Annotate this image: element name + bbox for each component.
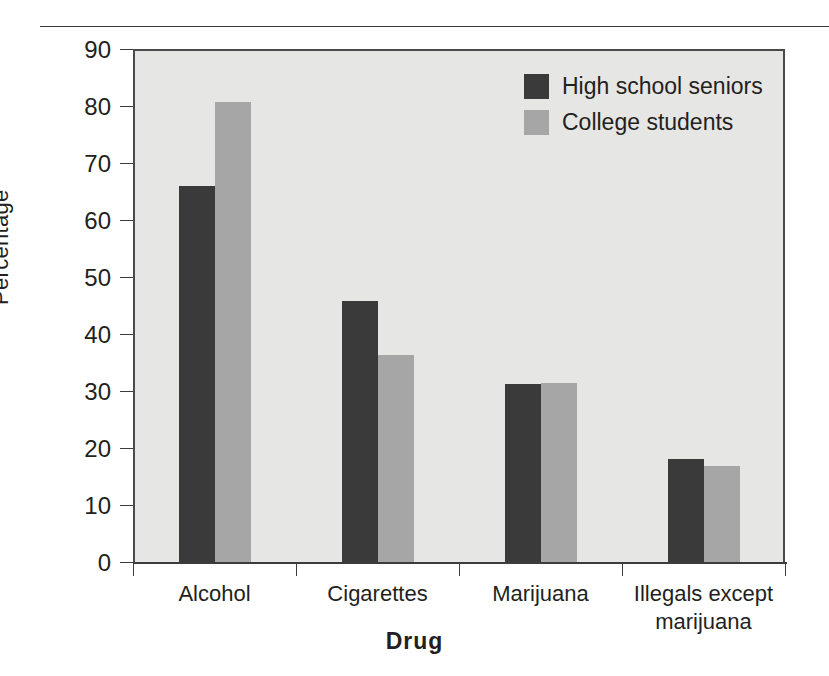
y-axis-tick: 10: [120, 505, 133, 506]
x-axis-category-label: Alcohol: [133, 580, 296, 608]
y-axis-tick-label: 20: [84, 437, 111, 461]
legend-swatch-icon: [524, 110, 549, 135]
y-axis-tick-label: 80: [84, 95, 111, 119]
legend-item: College students: [524, 109, 763, 136]
x-axis-tick: [785, 562, 786, 576]
y-axis-tick: 60: [120, 220, 133, 221]
bar-2-0: [505, 384, 541, 562]
y-axis-tick-label: 0: [98, 551, 111, 575]
x-axis-tick: [459, 562, 460, 576]
y-axis-tick: 30: [120, 391, 133, 392]
legend-item: High school seniors: [524, 73, 763, 100]
bar-3-0: [668, 459, 704, 562]
x-axis-category-label: Marijuana: [459, 580, 622, 608]
y-axis-tick: 20: [120, 448, 133, 449]
x-axis-tick: [622, 562, 623, 576]
y-axis-tick: 90: [120, 49, 133, 50]
y-axis-tick-label: 70: [84, 152, 111, 176]
x-axis-tick: [296, 562, 297, 576]
y-axis-tick: 50: [120, 277, 133, 278]
legend-label: High school seniors: [562, 73, 763, 100]
y-axis-title: Percentage: [0, 189, 14, 305]
y-axis-tick: 70: [120, 163, 133, 164]
bar-chart-figure: 0102030405060708090 AlcoholCigarettesMar…: [0, 0, 829, 676]
x-axis-category-label: Cigarettes: [296, 580, 459, 608]
y-axis-tick-label: 40: [84, 323, 111, 347]
legend-swatch-icon: [524, 74, 549, 99]
legend-label: College students: [562, 109, 733, 136]
y-axis-tick-label: 60: [84, 209, 111, 233]
y-axis-tick-label: 30: [84, 380, 111, 404]
y-axis-tick: 80: [120, 106, 133, 107]
y-axis-tick: 0: [120, 562, 133, 563]
y-axis-tick-label: 50: [84, 266, 111, 290]
bar-2-1: [541, 383, 577, 562]
x-axis-tick: [133, 562, 134, 576]
x-axis-line: [133, 562, 787, 564]
bar-0-0: [179, 186, 215, 562]
y-axis-line: [133, 49, 135, 562]
bar-3-1: [704, 466, 740, 562]
bar-1-1: [378, 355, 414, 562]
y-axis-tick: 40: [120, 334, 133, 335]
x-axis-title: Drug: [0, 628, 829, 655]
bar-0-1: [215, 102, 251, 562]
legend: High school seniorsCollege students: [524, 73, 763, 136]
bar-1-0: [342, 301, 378, 562]
y-axis-tick-label: 90: [84, 38, 111, 62]
y-axis-tick-label: 10: [84, 494, 111, 518]
